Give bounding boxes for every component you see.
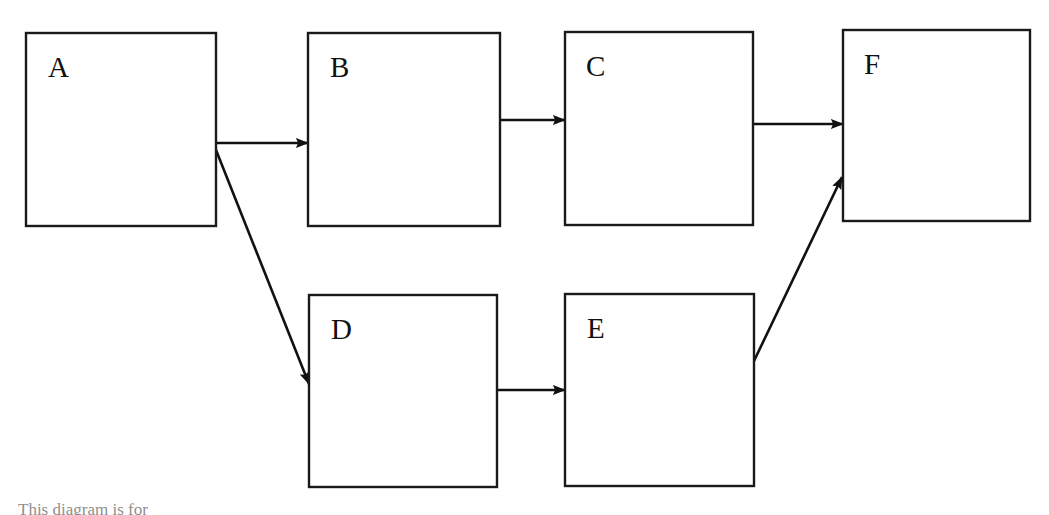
node-b-label: B <box>330 51 349 83</box>
node-e-label: E <box>587 312 605 344</box>
node-a-label: A <box>48 51 69 83</box>
node-f[interactable]: F <box>843 30 1030 221</box>
node-c[interactable]: C <box>565 32 753 225</box>
node-d[interactable]: D <box>309 295 497 487</box>
node-a[interactable]: A <box>26 33 216 226</box>
edge-e-to-f[interactable] <box>754 177 842 361</box>
node-e[interactable]: E <box>565 294 754 486</box>
node-b[interactable]: B <box>308 33 500 226</box>
edge-a-to-d[interactable] <box>216 150 309 384</box>
node-c-label: C <box>586 50 605 82</box>
node-group: A B C F D E <box>26 30 1030 487</box>
flow-diagram-canvas: A B C F D E <box>0 0 1049 515</box>
node-f-label: F <box>864 48 880 80</box>
node-d-label: D <box>331 313 352 345</box>
diagram-caption: This diagram is for <box>18 500 148 515</box>
